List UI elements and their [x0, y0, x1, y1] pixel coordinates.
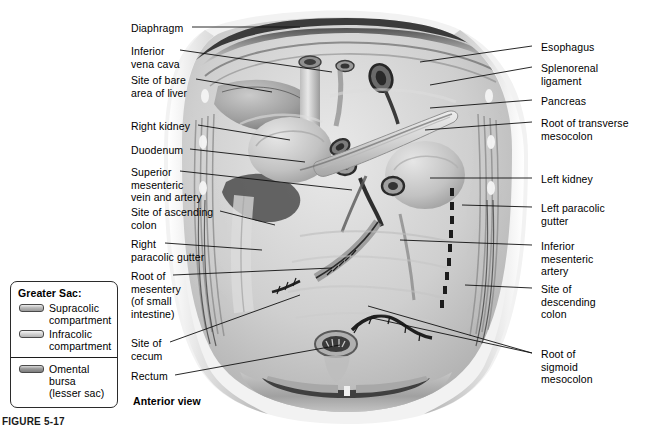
legend-swatch-supracolic	[19, 304, 44, 312]
label-root-of-mesentery: Root of mesentery (of small intestine)	[131, 270, 181, 320]
label-pancreas: Pancreas	[541, 95, 586, 108]
label-left-paracolic-gutter: Left paracolic gutter	[541, 202, 605, 227]
legend-item-infracolic-compartment: Infracolic compartment	[18, 328, 111, 353]
label-duodenum: Duodenum	[131, 144, 183, 157]
figure-number-caption: FIGURE 5-17	[2, 416, 65, 426]
legend-item-supracolic-compartment: Supracolic compartment	[18, 302, 111, 327]
label-site-of-cecum: Site of cecum	[131, 337, 162, 362]
figure-page: Diaphragm Inferior vena cava Site of bar…	[0, 0, 648, 426]
legend-title: Greater Sac:	[18, 287, 111, 299]
label-root-of-sigmoid-mesocolon: Root of sigmoid mesocolon	[541, 348, 593, 386]
label-esophagus: Esophagus	[541, 41, 594, 54]
label-right-paracolic-gutter: Right paracolic gutter	[131, 238, 204, 263]
label-splenorenal-ligament: Splenorenal ligament	[541, 62, 598, 87]
label-site-of-descending-colon: Site of descending colon	[541, 283, 596, 321]
label-right-kidney: Right kidney	[131, 120, 190, 133]
label-site-of-ascending-colon: Site of ascending colon	[131, 206, 213, 231]
label-superior-mesenteric-vein-and-artery: Superior mesenteric vein and artery	[131, 166, 202, 204]
legend-box: Greater Sac: Supracolic compartment Infr…	[10, 281, 118, 408]
label-left-kidney: Left kidney	[541, 173, 593, 186]
label-inferior-vena-cava: Inferior vena cava	[131, 45, 180, 70]
legend-item-omental-bursa: Omental bursa (lesser sac)	[18, 363, 111, 400]
legend-label-supracolic: Supracolic compartment	[49, 302, 111, 327]
anterior-view-caption: Anterior view	[133, 395, 201, 407]
label-rectum: Rectum	[131, 370, 168, 383]
legend-divider	[11, 357, 117, 358]
label-root-of-transverse-mesocolon: Root of transverse mesocolon	[541, 117, 629, 142]
label-inferior-mesenteric-artery: Inferior mesenteric artery	[541, 240, 593, 278]
legend-label-infracolic: Infracolic compartment	[49, 328, 111, 353]
legend-swatch-omental-bursa	[19, 365, 44, 373]
legend-label-omental-bursa: Omental bursa (lesser sac)	[49, 363, 104, 400]
legend-swatch-infracolic	[19, 330, 44, 338]
label-site-of-bare-area-of-liver: Site of bare area of liver	[131, 74, 187, 99]
label-diaphragm: Diaphragm	[131, 22, 183, 35]
